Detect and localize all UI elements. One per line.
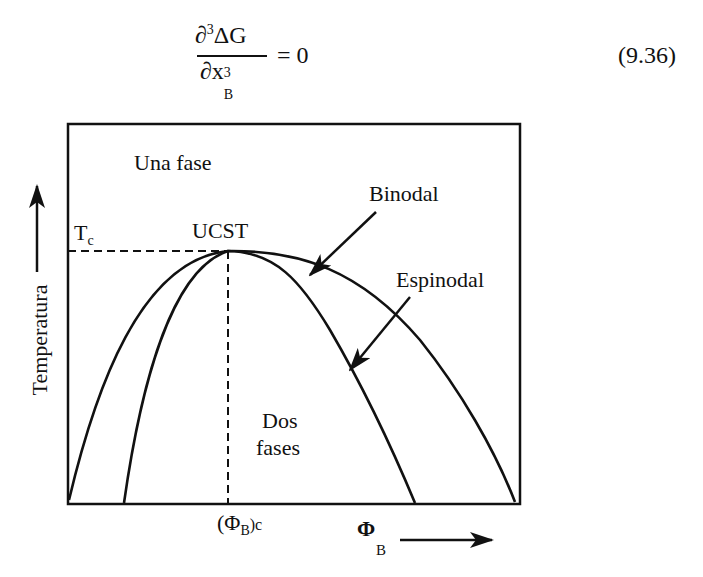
binodal-label: Binodal (369, 181, 439, 207)
composition-axis-label: Φ (357, 516, 375, 542)
spinodal-curve (124, 251, 415, 503)
tc-symbol: T (74, 220, 87, 245)
critical-composition-label: (ΦB)c (217, 510, 262, 539)
tc-label: Tc (74, 220, 94, 249)
critical-composition-phi: (Φ (217, 510, 240, 535)
spinodal-arrow (350, 297, 410, 370)
tc-subscript: c (87, 233, 93, 248)
critical-composition-sub: B (240, 523, 249, 538)
spinodal-label: Espinodal (396, 267, 484, 293)
critical-composition-close: )c (250, 516, 262, 533)
binodal-arrow (310, 212, 376, 275)
two-phase-label-line1: Dos (262, 408, 297, 434)
ucst-label: UCST (192, 218, 248, 244)
phi-symbol: Φ (357, 516, 375, 541)
one-phase-label: Una fase (134, 150, 212, 176)
two-phase-label-line2: fases (256, 435, 300, 461)
phase-diagram (0, 0, 703, 577)
composition-axis-subscript: B (376, 542, 386, 559)
temperature-axis-label: Temperatura (27, 285, 53, 396)
